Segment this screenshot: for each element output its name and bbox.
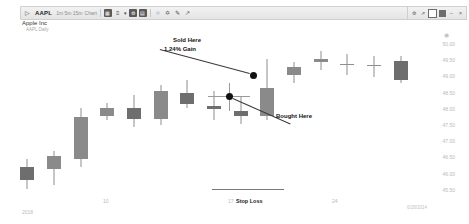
price-axis-tick: 49.50 [425, 57, 455, 63]
expand-icon[interactable]: ⇗ [419, 10, 426, 17]
candle-body [47, 156, 61, 169]
price-axis-tick: 45.50 [425, 187, 455, 193]
date-axis-tick: 10 [103, 198, 109, 204]
calendar-icon[interactable]: ▤ [139, 9, 147, 17]
candle-body [314, 59, 328, 62]
minimize-icon[interactable]: – [448, 10, 455, 17]
sold-annotation-line2: 1.24% Gain [164, 45, 196, 53]
candle-body [154, 91, 168, 119]
price-axis[interactable]: ◉ 50.0049.5049.0048.5048.0047.5047.0046.… [417, 33, 469, 203]
toolbar-divider [100, 9, 101, 17]
candle-body [20, 167, 34, 180]
sold-annotation-line1: Sold Here [173, 36, 201, 44]
company-name: Apple Inc [22, 20, 47, 26]
cursor-tool-icon[interactable]: ▷ [23, 9, 31, 17]
candlestick[interactable] [314, 33, 328, 195]
candle-body [180, 93, 194, 104]
candlestick[interactable] [234, 33, 248, 195]
chart-type-selector[interactable]: Chart [85, 10, 97, 16]
candle-doji-body [340, 64, 354, 65]
candlestick[interactable] [100, 33, 114, 195]
indicator-icon[interactable]: ≡ [114, 9, 122, 17]
date-axis-tick: 2018 [22, 209, 33, 215]
candle-doji-body [367, 65, 381, 66]
candlestick[interactable] [367, 33, 381, 195]
candlestick-plot-area[interactable] [14, 33, 414, 195]
interval-selector[interactable]: 1m 5m 15m [56, 10, 82, 16]
date-axis[interactable]: 2018101724 [0, 198, 469, 218]
bought-annotation: Bought Here [276, 112, 312, 120]
timestamp-label: 6/28/2014 [407, 205, 427, 210]
candle-body [100, 108, 114, 116]
candle-body [234, 111, 248, 116]
price-axis-tick: 46.00 [425, 171, 455, 177]
restore-icon[interactable] [428, 9, 437, 18]
candlestick[interactable] [154, 33, 168, 195]
window-controls: ⚙ ⇗ – × [407, 6, 467, 20]
price-axis-tick: 46.50 [425, 154, 455, 160]
maximize-icon[interactable] [439, 10, 446, 17]
close-icon[interactable]: × [457, 10, 464, 17]
candlestick[interactable] [207, 33, 221, 195]
candlestick[interactable] [74, 33, 88, 195]
settings-icon[interactable]: ⚙ [410, 10, 417, 17]
settings-gear-icon[interactable]: ⚙ [129, 9, 137, 17]
price-axis-tick: 47.50 [425, 122, 455, 128]
circle-tool-icon[interactable]: ○ [154, 9, 162, 17]
toolbar-divider-2 [150, 9, 151, 17]
stop-loss-line [212, 189, 284, 190]
price-axis-settings-icon[interactable]: ◉ [444, 31, 449, 38]
chevron-down-icon[interactable]: ▾ [124, 10, 127, 16]
candle-body [127, 108, 141, 119]
chart-toolbar: ▷ AAPL 1m 5m 15m Chart ▦ ≡ ▾ ⚙ ▤ ○ ✡ ✎ ↗ [20, 6, 434, 20]
candle-body [207, 106, 221, 109]
price-axis-tick: 48.50 [425, 90, 455, 96]
measure-tool-icon[interactable]: ↗ [184, 9, 192, 17]
price-axis-tick: 47.00 [425, 138, 455, 144]
trendline-tool-icon[interactable]: ✡ [164, 9, 172, 17]
price-axis-tick: 50.00 [425, 41, 455, 47]
candlestick[interactable] [340, 33, 354, 195]
candle-body [287, 67, 301, 75]
annotation-tool-icon[interactable]: ✎ [174, 9, 182, 17]
company-subtitle: AAPL Daily [26, 27, 49, 32]
sold-marker-dot[interactable] [250, 72, 257, 79]
candlestick[interactable] [20, 33, 34, 195]
date-axis-tick: 24 [332, 198, 338, 204]
grid-icon[interactable]: ▦ [104, 9, 112, 17]
price-axis-tick: 48.00 [425, 106, 455, 112]
candlestick[interactable] [394, 33, 408, 195]
chart-application-window: ▷ AAPL 1m 5m 15m Chart ▦ ≡ ▾ ⚙ ▤ ○ ✡ ✎ ↗… [0, 0, 469, 224]
date-axis-tick: 17 [228, 198, 234, 204]
symbol-field[interactable]: AAPL [33, 10, 54, 16]
candlestick[interactable] [127, 33, 141, 195]
candle-body [394, 61, 408, 80]
candle-body [74, 117, 88, 159]
price-axis-tick: 49.00 [425, 73, 455, 79]
candlestick[interactable] [47, 33, 61, 195]
